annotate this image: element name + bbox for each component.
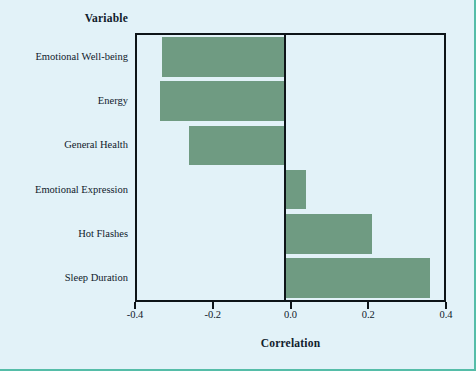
x-axis-tick-label: 0.2 bbox=[348, 309, 388, 320]
figure-page: Variable Emotional Well-beingEnergyGener… bbox=[0, 0, 476, 371]
x-axis-tick-label: -0.2 bbox=[193, 309, 233, 320]
x-axis-tick-label: 0.0 bbox=[271, 309, 311, 320]
x-axis-tick-label: 0.4 bbox=[426, 309, 466, 320]
bar bbox=[286, 258, 431, 298]
x-axis-tick-mark bbox=[367, 302, 369, 309]
variable-column-header: Variable bbox=[0, 12, 128, 24]
bar bbox=[286, 214, 373, 254]
x-axis-title: Correlation bbox=[135, 337, 446, 349]
x-axis-tick-mark bbox=[290, 302, 292, 309]
plot-area bbox=[137, 35, 444, 300]
bar bbox=[189, 126, 285, 166]
x-axis-tick-label: -0.4 bbox=[115, 309, 155, 320]
horizontal-bar-chart: Variable Emotional Well-beingEnergyGener… bbox=[0, 0, 474, 369]
x-axis-tick-mark bbox=[212, 302, 214, 309]
y-axis-tick-label: Energy bbox=[0, 95, 128, 107]
y-axis-tick-label: General Health bbox=[0, 139, 128, 151]
x-axis-tick-mark bbox=[134, 302, 136, 309]
zero-baseline bbox=[284, 33, 286, 302]
bar bbox=[160, 81, 285, 121]
y-axis-tick-label: Sleep Duration bbox=[0, 272, 128, 284]
y-axis-tick-label: Emotional Well-being bbox=[0, 51, 128, 63]
y-axis-tick-label: Hot Flashes bbox=[0, 228, 128, 240]
y-axis-tick-label: Emotional Expression bbox=[0, 184, 128, 196]
bar bbox=[162, 37, 285, 77]
x-axis-tick-mark bbox=[445, 302, 447, 309]
bar bbox=[286, 170, 307, 210]
